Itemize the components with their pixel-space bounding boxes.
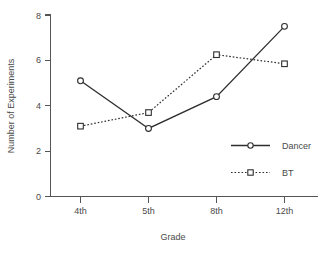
- chart-legend: Dancer BT: [231, 141, 311, 178]
- y-axis-title: Number of Experiments: [6, 58, 16, 153]
- series-dancer-line: [81, 26, 285, 128]
- data-point-circle: [78, 78, 84, 84]
- series-bt-markers: [78, 52, 288, 129]
- data-point-circle: [146, 126, 152, 132]
- x-axis-title: Grade: [160, 232, 185, 242]
- data-point-circle: [282, 23, 288, 29]
- x-tick-label-4th: 4th: [74, 206, 87, 216]
- y-tick-label-8: 8: [36, 11, 41, 21]
- data-point-square: [78, 123, 84, 129]
- legend-label-dancer: Dancer: [282, 141, 311, 151]
- legend-entry-dancer[interactable]: Dancer: [231, 141, 311, 151]
- series-dancer: [78, 23, 288, 131]
- x-tick-label-12th: 12th: [276, 206, 294, 216]
- square-open-icon: [248, 170, 253, 175]
- series-dancer-markers: [78, 23, 288, 131]
- y-tick-label-6: 6: [36, 55, 41, 65]
- y-tick-label-4: 4: [36, 101, 41, 111]
- y-tick-label-0: 0: [36, 192, 41, 202]
- x-axis-tick-labels: 4th 5th 8th 12th: [74, 206, 293, 216]
- y-axis-tick-labels: 0 2 4 6 8: [36, 11, 41, 202]
- series-bt-line: [81, 55, 285, 126]
- data-point-circle: [214, 94, 220, 100]
- series-bt: [78, 52, 288, 129]
- data-point-square: [282, 61, 288, 67]
- chart-canvas: 0 2 4 6 8 4th 5th 8th 12th Grade Number …: [0, 0, 325, 256]
- y-tick-label-2: 2: [36, 146, 41, 156]
- legend-label-bt: BT: [282, 168, 294, 178]
- circle-open-icon: [248, 143, 253, 148]
- x-tick-label-5th: 5th: [142, 206, 155, 216]
- y-axis-ticks: [45, 15, 51, 197]
- x-axis-ticks: [81, 197, 285, 203]
- data-point-square: [146, 110, 152, 116]
- legend-entry-bt[interactable]: BT: [231, 168, 294, 178]
- x-tick-label-8th: 8th: [210, 206, 223, 216]
- data-point-square: [214, 52, 220, 58]
- line-chart: 0 2 4 6 8 4th 5th 8th 12th Grade Number …: [0, 0, 325, 256]
